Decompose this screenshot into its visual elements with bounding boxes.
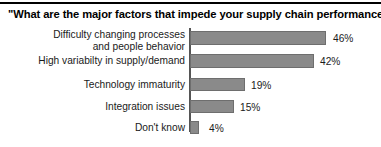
bar-segment — [190, 100, 234, 113]
title-top-rule — [0, 2, 381, 4]
bar-segment — [190, 121, 199, 134]
bar-row: Integration issues 15% — [0, 96, 381, 118]
bar-row: Don't know 4% — [0, 118, 381, 140]
bar-row: Technology immaturity 19% — [0, 74, 381, 96]
bar-segment — [190, 78, 245, 91]
bar-row: Difficulty changing processes and people… — [0, 26, 381, 52]
bar-category-label: Don't know — [135, 122, 185, 134]
bar-segment — [190, 54, 314, 68]
bar-segment — [190, 31, 326, 45]
bar-value-label: 15% — [240, 102, 260, 113]
chart-figure: "What are the major factors that impede … — [0, 0, 381, 147]
plot-area: Difficulty changing processes and people… — [0, 26, 381, 138]
bar-value-label: 46% — [333, 33, 353, 44]
bar-value-label: 4% — [209, 123, 224, 134]
bar-category-label: Difficulty changing processes and people… — [53, 29, 185, 52]
bar-category-label: Technology immaturity — [84, 79, 185, 91]
bar-category-label: Integration issues — [105, 101, 185, 113]
bar-category-label: High variabilty in supply/demand — [38, 55, 185, 67]
bar-row: High variabilty in supply/demand 42% — [0, 52, 381, 74]
bar-value-label: 19% — [251, 80, 271, 91]
chart-title: "What are the major factors that impede … — [8, 8, 376, 20]
bar-value-label: 42% — [320, 56, 340, 67]
